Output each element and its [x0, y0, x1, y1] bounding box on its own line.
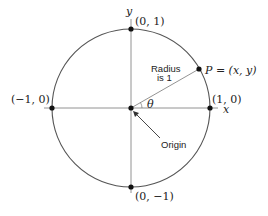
point-origin — [128, 105, 133, 110]
label-top: (0, 1) — [135, 15, 165, 28]
point-p — [196, 66, 201, 71]
label-p: P = (x, y) — [204, 64, 257, 77]
point-right — [207, 105, 212, 110]
point-top — [128, 26, 133, 31]
diagram-canvas: y x (0, 1) (0, −1) (−1, 0) (1, 0) P = (x… — [0, 0, 268, 216]
unit-circle-diagram: y x (0, 1) (0, −1) (−1, 0) (1, 0) P = (x… — [0, 0, 268, 216]
radius-label-line2: is 1 — [157, 72, 172, 83]
y-axis-label: y — [125, 5, 133, 18]
label-bottom: (0, −1) — [135, 190, 174, 203]
origin-arrow — [135, 113, 160, 138]
angle-label: θ — [147, 98, 154, 111]
angle-arc — [141, 103, 143, 108]
point-left — [49, 105, 54, 110]
point-bottom — [128, 184, 133, 189]
origin-label: Origin — [161, 139, 186, 150]
label-right: (1, 0) — [212, 93, 242, 106]
label-left: (−1, 0) — [11, 93, 50, 106]
